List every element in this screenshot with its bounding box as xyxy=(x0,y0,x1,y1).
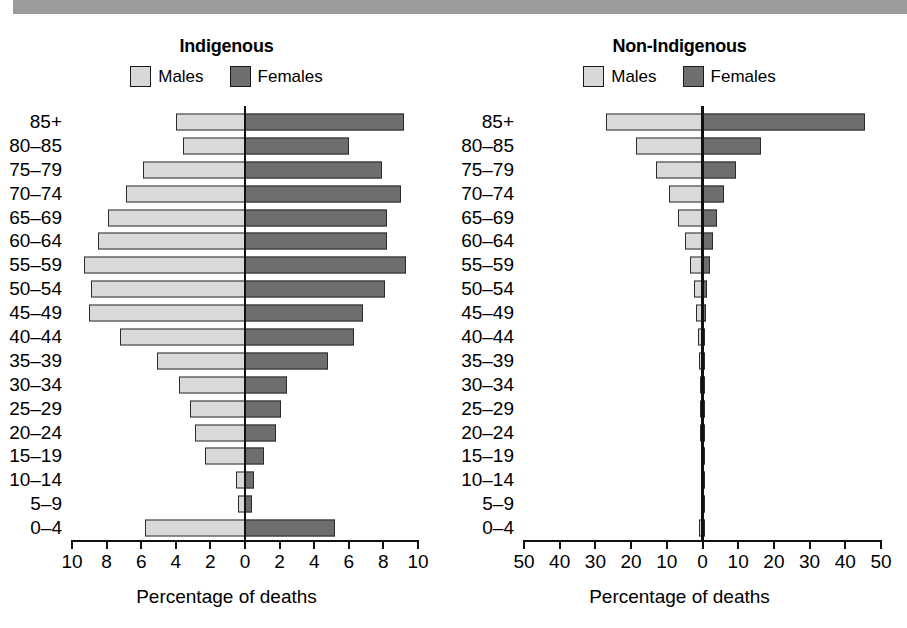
age-group-label: 40–44 xyxy=(0,325,66,349)
x-axis-tick-label: 40 xyxy=(835,551,856,573)
legend-label-females: Females xyxy=(258,67,323,87)
bar-male xyxy=(84,257,245,274)
bar-male xyxy=(669,185,703,202)
x-axis-tick xyxy=(348,540,350,549)
x-axis-tick xyxy=(844,540,846,549)
age-group-label: 50–54 xyxy=(453,277,518,301)
age-group-label: 15–19 xyxy=(0,444,66,468)
x-axis-tick-label: 20 xyxy=(621,551,642,573)
x-axis-tick xyxy=(313,540,315,549)
bar-female xyxy=(703,137,762,154)
x-axis-tick-label: 8 xyxy=(378,551,389,573)
bar-female xyxy=(245,472,254,489)
x-axis-tick xyxy=(382,540,384,549)
bar-male xyxy=(606,113,702,130)
x-axis-title-indigenous: Percentage of deaths xyxy=(0,586,453,608)
age-group-label: 40–44 xyxy=(453,325,518,349)
x-axis-tick-label: 10 xyxy=(728,551,749,573)
x-axis-tick xyxy=(702,540,704,549)
age-group-label: 60–64 xyxy=(453,229,518,253)
age-group-label: 85+ xyxy=(0,110,66,134)
bar-male xyxy=(89,305,245,322)
bar-female xyxy=(703,161,737,178)
age-group-label: 75–79 xyxy=(0,158,66,182)
bar-male xyxy=(678,209,703,226)
x-axis-tick xyxy=(773,540,775,549)
bar-female xyxy=(245,520,335,537)
bar-male xyxy=(120,328,245,345)
x-axis-tick xyxy=(209,540,211,549)
x-axis-tick-label: 8 xyxy=(101,551,112,573)
legend-swatch-males-icon xyxy=(130,66,151,87)
x-axis-tick-label: 0 xyxy=(240,551,251,573)
bar-male xyxy=(183,137,245,154)
x-axis-title-non-indigenous: Percentage of deaths xyxy=(453,586,906,608)
legend-label-females: Females xyxy=(711,67,776,87)
bar-male xyxy=(195,424,245,441)
age-axis-labels-non-indigenous: 85+80–8575–7970–7465–6960–6455–5950–5445… xyxy=(453,110,518,540)
x-axis-tick-label: 50 xyxy=(870,551,891,573)
x-axis-tick xyxy=(630,540,632,549)
x-axis-tick xyxy=(244,540,246,549)
age-group-label: 15–19 xyxy=(453,444,518,468)
age-group-label: 70–74 xyxy=(0,182,66,206)
population-pyramid-figure: Indigenous Males Females 85+80–8575–7970… xyxy=(0,14,907,628)
bar-female xyxy=(245,209,387,226)
age-group-label: 20–24 xyxy=(0,421,66,445)
x-axis-tick xyxy=(737,540,739,549)
bar-male xyxy=(157,352,245,369)
age-group-label: 55–59 xyxy=(453,253,518,277)
bar-female xyxy=(245,185,401,202)
bar-female xyxy=(245,113,404,130)
x-axis-tick-label: 30 xyxy=(585,551,606,573)
x-axis-tick xyxy=(666,540,668,549)
x-axis-tick xyxy=(594,540,596,549)
bar-female xyxy=(245,161,382,178)
age-group-label: 30–34 xyxy=(453,373,518,397)
age-group-label: 35–39 xyxy=(0,349,66,373)
age-group-label: 5–9 xyxy=(453,492,518,516)
age-group-label: 50–54 xyxy=(0,277,66,301)
age-group-label: 45–49 xyxy=(0,301,66,325)
x-axis-tick-label: 4 xyxy=(309,551,320,573)
bar-female xyxy=(245,281,385,298)
x-axis-tick-label: 50 xyxy=(513,551,534,573)
legend-item-males: Males xyxy=(583,66,656,87)
x-axis-tick-label: 20 xyxy=(763,551,784,573)
legend-item-males: Males xyxy=(130,66,203,87)
chart-panel-indigenous: Indigenous Males Females 85+80–8575–7970… xyxy=(0,14,453,628)
bar-male xyxy=(145,520,245,537)
bar-female xyxy=(245,137,349,154)
age-group-label: 45–49 xyxy=(453,301,518,325)
x-axis-tick-label: 30 xyxy=(799,551,820,573)
age-group-label: 65–69 xyxy=(0,206,66,230)
bar-female xyxy=(245,328,354,345)
chart-title-non-indigenous: Non-Indigenous xyxy=(453,36,906,57)
bar-female xyxy=(245,352,328,369)
x-axis-tick xyxy=(106,540,108,549)
age-group-label: 30–34 xyxy=(0,373,66,397)
bar-female xyxy=(245,233,387,250)
x-axis-tick-label: 6 xyxy=(136,551,147,573)
legend-swatch-females-icon xyxy=(230,66,251,87)
bar-female xyxy=(245,400,281,417)
bar-male xyxy=(108,209,245,226)
x-axis-tick-label: 2 xyxy=(274,551,285,573)
x-axis-tick-label: 40 xyxy=(549,551,570,573)
x-axis-tick-label: 10 xyxy=(407,551,428,573)
legend-swatch-females-icon xyxy=(683,66,704,87)
bar-male xyxy=(656,161,702,178)
x-axis-tick-label: 10 xyxy=(656,551,677,573)
age-group-label: 65–69 xyxy=(453,206,518,230)
age-group-label: 80–85 xyxy=(453,134,518,158)
bar-male xyxy=(179,376,245,393)
age-group-label: 20–24 xyxy=(453,421,518,445)
bar-male xyxy=(205,448,245,465)
bar-male xyxy=(98,233,245,250)
x-axis-tick xyxy=(417,540,419,549)
bar-male xyxy=(685,233,703,250)
top-gray-banner xyxy=(13,0,907,14)
x-axis-tick-label: 4 xyxy=(171,551,182,573)
chart-title-indigenous: Indigenous xyxy=(0,36,453,57)
x-axis-tick-label: 2 xyxy=(205,551,216,573)
